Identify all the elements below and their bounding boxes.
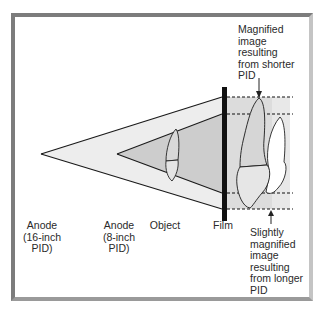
- label-magnified-longer-pid: Slightly magnified image resulting from …: [250, 227, 303, 296]
- label-anode-8-inch: Anode (8-inch PID): [100, 220, 138, 255]
- label-anode-16-inch: Anode (16-inch PID): [21, 220, 63, 255]
- label-magnified-shorter-pid: Magnified image resulting from shorter P…: [238, 24, 295, 82]
- arrow-down-icon: [256, 91, 262, 98]
- arrow-up-icon: [268, 210, 274, 216]
- film-bar: [222, 87, 227, 221]
- label-object: Object: [145, 220, 185, 232]
- label-film: Film: [208, 220, 238, 232]
